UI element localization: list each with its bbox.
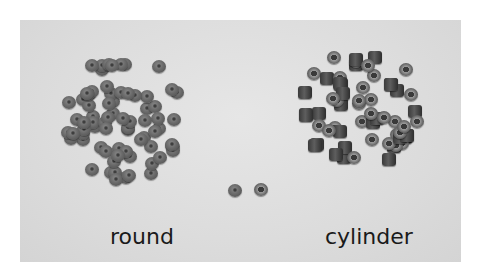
round-bead bbox=[100, 80, 114, 93]
round-bead bbox=[80, 87, 94, 100]
round-bead bbox=[66, 127, 80, 140]
round-bead bbox=[85, 163, 99, 176]
round-bead bbox=[62, 96, 76, 109]
round-bead bbox=[148, 125, 162, 138]
cylinder-bead bbox=[308, 139, 322, 152]
round-bead bbox=[122, 169, 136, 182]
cylinder-label: cylinder bbox=[325, 224, 413, 249]
cylinder-bead bbox=[329, 148, 343, 161]
round-bead bbox=[109, 173, 123, 186]
bead-photo: round cylinder bbox=[20, 20, 461, 262]
cylinder-bead bbox=[327, 51, 341, 64]
cylinder-bead bbox=[365, 133, 379, 146]
cylinder-bead bbox=[410, 115, 424, 128]
round-bead bbox=[121, 87, 135, 100]
cylinder-bead bbox=[397, 120, 411, 133]
cylinder-bead bbox=[347, 151, 361, 164]
round-bead bbox=[99, 122, 113, 135]
cylinder-bead bbox=[377, 111, 391, 124]
cylinder-bead bbox=[404, 88, 418, 101]
cylinder-bead bbox=[312, 107, 326, 120]
sample-round-bead bbox=[228, 184, 242, 197]
cylinder-bead bbox=[326, 92, 340, 105]
round-bead bbox=[138, 114, 152, 127]
round-bead bbox=[167, 113, 181, 126]
cylinder-bead bbox=[307, 67, 321, 80]
round-bead bbox=[111, 149, 125, 162]
round-bead bbox=[152, 60, 166, 73]
cylinder-bead bbox=[364, 107, 378, 120]
round-bead bbox=[85, 59, 99, 72]
cylinder-bead bbox=[384, 78, 398, 91]
cylinder-bead bbox=[399, 63, 413, 76]
round-bead bbox=[153, 151, 167, 164]
round-bead bbox=[134, 133, 148, 146]
cylinder-bead bbox=[299, 109, 313, 122]
round-bead bbox=[102, 97, 116, 110]
sample-cylinder-bead bbox=[254, 183, 268, 196]
round-bead bbox=[151, 112, 165, 125]
round-bead bbox=[116, 112, 130, 125]
round-label: round bbox=[110, 224, 174, 249]
round-bead bbox=[77, 116, 91, 129]
cylinder-bead bbox=[382, 153, 396, 166]
cylinder-bead bbox=[298, 86, 312, 99]
